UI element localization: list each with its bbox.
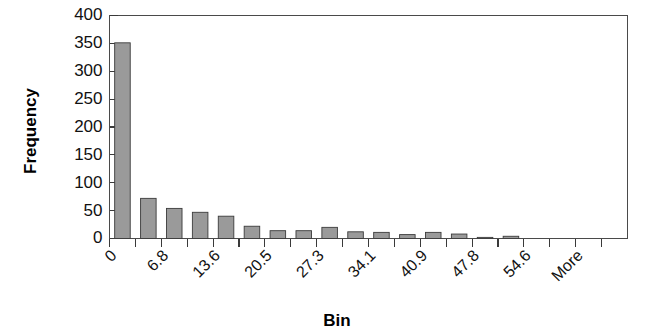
x-tick-label: 13.6 xyxy=(189,247,223,281)
y-tick-label: 200 xyxy=(74,117,102,136)
y-tick-label: 50 xyxy=(84,201,103,220)
y-tick-label: 350 xyxy=(74,33,102,52)
histogram-bar xyxy=(348,232,364,239)
plot-border xyxy=(110,16,628,239)
histogram-bar xyxy=(451,234,467,238)
x-axis-title: Bin xyxy=(323,311,350,330)
histogram-bar xyxy=(141,198,157,238)
chart-canvas: 050100150200250300350400 06.813.620.527.… xyxy=(0,0,655,335)
histogram-bar xyxy=(322,227,338,238)
x-tick-label: 54.6 xyxy=(500,247,534,281)
y-tick-label: 300 xyxy=(74,61,102,80)
x-tick-label: 0 xyxy=(101,247,119,265)
histogram-bar xyxy=(270,231,286,239)
histogram-bar xyxy=(477,237,493,238)
plot-area-frame xyxy=(110,16,628,239)
histogram-bar xyxy=(166,208,182,238)
histogram-bar xyxy=(503,236,519,238)
x-tick-label: 27.3 xyxy=(293,247,327,281)
y-tick-label: 400 xyxy=(74,5,102,24)
histogram-bar xyxy=(192,212,208,238)
x-tick-label: 6.8 xyxy=(144,247,172,275)
y-tick-label: 0 xyxy=(93,228,102,247)
y-tick-label: 100 xyxy=(74,173,102,192)
histogram-chart: 050100150200250300350400 06.813.620.527.… xyxy=(0,0,655,335)
histogram-bar xyxy=(400,235,416,239)
histogram-bar xyxy=(115,43,131,239)
x-tick-label: 34.1 xyxy=(345,247,379,281)
x-tick-label: 40.9 xyxy=(396,247,430,281)
y-tick-label: 250 xyxy=(74,89,102,108)
y-tick-label: 150 xyxy=(74,145,102,164)
histogram-bar xyxy=(296,231,312,239)
histogram-bar xyxy=(244,226,260,238)
y-axis-title: Frequency xyxy=(21,87,40,174)
y-axis-tick-labels: 050100150200250300350400 xyxy=(74,5,102,247)
bar-series xyxy=(115,43,519,239)
x-tick-label: 47.8 xyxy=(448,247,482,281)
x-tick-label: 20.5 xyxy=(241,247,275,281)
x-tick-label: More xyxy=(548,247,586,285)
histogram-bar xyxy=(425,232,441,238)
x-axis-tick-marks xyxy=(110,239,602,247)
histogram-bar xyxy=(374,232,390,238)
histogram-bar xyxy=(218,216,234,238)
x-axis-tick-labels: 06.813.620.527.334.140.947.854.6More xyxy=(101,247,586,285)
